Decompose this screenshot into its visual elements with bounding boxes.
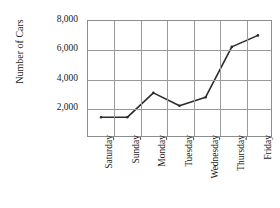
data-point-marker xyxy=(231,46,234,49)
x-tick-label: Saturday xyxy=(104,135,114,205)
data-point-marker xyxy=(178,105,181,108)
data-point-marker xyxy=(100,116,103,119)
x-tick-label: Wednesday xyxy=(210,135,220,205)
line-chart-figure: Number of Cars 8,0006,0004,0002,000 Satu… xyxy=(0,0,280,208)
y-tick-label: 8,000 xyxy=(34,15,78,25)
y-axis-tick-labels: 8,0006,0004,0002,000 xyxy=(32,0,78,208)
x-tick-label: Monday xyxy=(157,135,167,205)
x-tick-label: Friday xyxy=(263,135,273,205)
x-axis-tick-labels: SaturdaySundayMondayTuesdayWednesdayThur… xyxy=(87,137,272,208)
gridline-vertical xyxy=(167,21,168,136)
gridline-horizontal xyxy=(88,50,271,51)
gridline-vertical xyxy=(220,21,221,136)
gridline-vertical xyxy=(194,21,195,136)
data-series-line xyxy=(88,21,271,136)
x-tick-label: Thursday xyxy=(236,135,246,205)
x-tick-label: Sunday xyxy=(131,135,141,205)
x-tick-label: Tuesday xyxy=(184,135,194,205)
gridline-vertical xyxy=(247,21,248,136)
y-axis-title: Number of Cars xyxy=(14,4,25,100)
plot-area xyxy=(87,20,272,137)
data-point-marker xyxy=(126,116,129,119)
gridline-vertical xyxy=(141,21,142,136)
y-tick-label: 6,000 xyxy=(34,44,78,54)
data-point-marker xyxy=(204,96,207,99)
y-tick-label: 2,000 xyxy=(34,103,78,113)
data-point-marker xyxy=(152,92,155,95)
y-tick-label: 4,000 xyxy=(34,74,78,84)
gridline-vertical xyxy=(114,21,115,136)
data-point-marker xyxy=(257,34,260,37)
gridline-horizontal xyxy=(88,109,271,110)
gridline-horizontal xyxy=(88,80,271,81)
